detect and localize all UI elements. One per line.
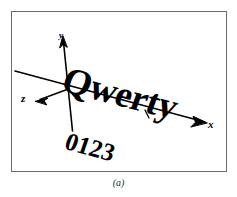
figure-caption: (a)	[0, 177, 237, 188]
x-axis-label: x	[208, 119, 214, 130]
z-axis-label: z	[21, 93, 25, 104]
figure-panel: Qwerty 0123 x y z (a)	[0, 0, 237, 197]
y-axis-label: y	[59, 31, 63, 40]
